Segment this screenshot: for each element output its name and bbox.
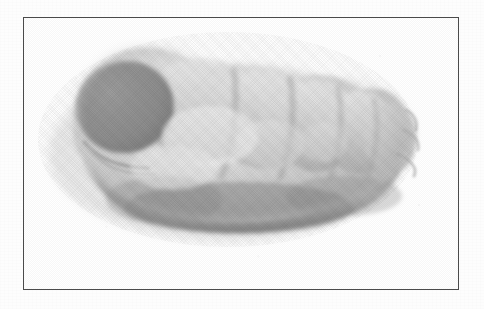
- figure-frame: [23, 17, 459, 290]
- image-plate: [0, 0, 484, 309]
- specimen-svg: [24, 18, 459, 290]
- specimen-illustration: [24, 18, 459, 290]
